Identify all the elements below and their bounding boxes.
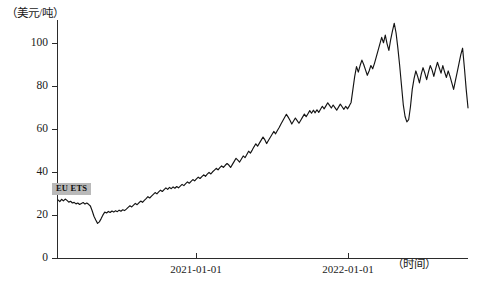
axis-group [58, 20, 469, 259]
series-line-eu-ets [58, 23, 468, 223]
series-label-badge: EU ETS [52, 183, 91, 195]
x-tick-marks [197, 253, 349, 259]
plot-area [0, 0, 477, 288]
chart-container: （美元/吨） 100 80 60 40 20 0 2021-01-01 2022… [0, 0, 477, 288]
y-tick-marks [52, 44, 58, 259]
